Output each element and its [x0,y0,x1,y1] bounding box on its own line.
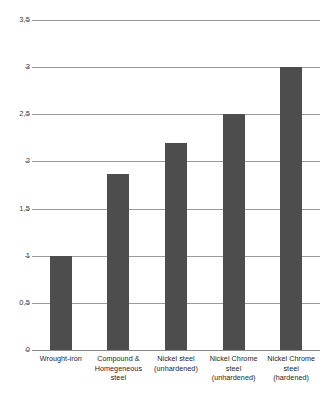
x-category-label-line: Homegeneous [91,364,147,374]
x-category-label-line: Wrought-iron [33,354,89,364]
x-category-label-line: (unhardened) [206,373,262,383]
bar [50,256,72,350]
y-tick-mark [25,67,30,68]
gridline [32,20,320,21]
y-tick-mark [25,350,30,351]
y-tick-mark [25,114,30,115]
bar [280,67,302,350]
x-category-label: Nickel Chromesteel(unhardened) [205,354,263,402]
bar [165,143,187,350]
x-category-label-line: Compound & [91,354,147,364]
x-category-label-line: Nickel Chrome [263,354,319,364]
gridline [32,350,320,351]
y-tick-mark [25,209,30,210]
bar [107,174,129,350]
x-category-label: Nickel steel(unhardened) [147,354,205,402]
y-tick-mark [25,20,30,21]
x-category-label-line: steel [206,364,262,374]
x-category-label: Nickel Chromesteel(hardened) [262,354,320,402]
y-axis: 00,511,522,533,5 [0,20,30,350]
gridline [32,67,320,68]
plot-area [32,20,320,350]
x-category-label: Wrought-iron [32,354,90,402]
x-category-label-line: (unhardened) [148,364,204,374]
bar-chart: 00,511,522,533,5 Wrought-ironCompound &H… [0,0,330,405]
x-axis: Wrought-ironCompound &HomegeneoussteelNi… [32,354,320,402]
y-tick-mark [25,256,30,257]
x-category-label-line: steel [91,373,147,383]
y-tick-mark [25,161,30,162]
x-category-label-line: Nickel Chrome [206,354,262,364]
gridline [32,114,320,115]
x-category-label-line: Nickel steel [148,354,204,364]
y-tick-mark [25,303,30,304]
x-category-label: Compound &Homegeneoussteel [90,354,148,402]
x-category-label-line: steel [263,364,319,374]
bar [223,114,245,350]
x-category-label-line: (hardened) [263,373,319,383]
